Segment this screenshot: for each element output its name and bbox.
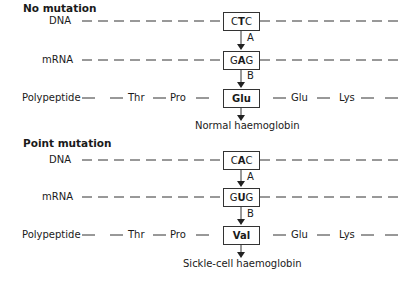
arrowhead-icon — [237, 82, 245, 88]
residue-thr: Thr — [128, 92, 145, 103]
residue-pro: Pro — [170, 92, 186, 103]
arrowhead-icon — [237, 44, 245, 50]
residue-thr: Thr — [128, 229, 145, 240]
section-title: No mutation — [23, 2, 97, 14]
residue-glu: Glu — [291, 92, 308, 103]
mrna-label: mRNA — [42, 54, 73, 65]
dna-codon-box: CTC — [223, 12, 260, 31]
arrowhead-icon — [237, 219, 245, 225]
arrow-label-a: A — [247, 32, 254, 43]
residue-glu: Glu — [291, 229, 308, 240]
arrow-label-a: A — [247, 171, 254, 182]
residue-lys: Lys — [339, 92, 355, 103]
polypeptide-label: Polypeptide — [22, 92, 81, 103]
mrna-label: mRNA — [42, 191, 73, 202]
residue-lys: Lys — [339, 229, 355, 240]
arrow-label-b: B — [247, 208, 254, 219]
dna-codon-box: CAC — [223, 151, 260, 170]
polypeptide-label: Polypeptide — [22, 229, 81, 240]
amino-acid-box: Glu — [223, 89, 260, 108]
result-label: Sickle-cell haemoglobin — [183, 258, 302, 269]
dna-label: DNA — [49, 15, 71, 26]
result-label: Normal haemoglobin — [195, 120, 300, 131]
amino-acid-box: Val — [223, 226, 260, 245]
arrowhead-icon — [237, 181, 245, 187]
residue-pro: Pro — [170, 229, 186, 240]
mrna-codon-box: GAG — [223, 51, 260, 70]
arrow-label-b: B — [247, 70, 254, 81]
dna-label: DNA — [49, 154, 71, 165]
mrna-codon-box: GUG — [223, 188, 260, 207]
section-title: Point mutation — [23, 137, 112, 149]
